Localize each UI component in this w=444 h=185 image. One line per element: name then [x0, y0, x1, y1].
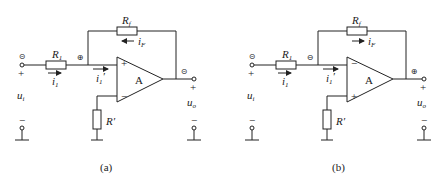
node-in-symbol-a: ⊝: [19, 52, 26, 61]
resistor-rprime-b: [323, 110, 331, 129]
amp-label-a: A: [135, 74, 143, 86]
opamp-top-input-a: +: [121, 57, 127, 69]
svg-text:i1: i1: [52, 75, 59, 89]
svg-text:i1′: i1′: [96, 70, 106, 86]
node-mid-symbol-b: ⊖: [307, 53, 314, 62]
ui-plus-a: +: [18, 67, 24, 79]
svg-text:R1: R1: [51, 48, 62, 62]
svg-text:iF: iF: [138, 35, 146, 49]
node-mid-symbol-a: ⊕: [77, 53, 84, 62]
node-out-symbol-a: ⊝: [181, 67, 188, 76]
opamp-bottom-input-b: +: [351, 90, 357, 102]
opamp-bottom-input-a: −: [121, 90, 127, 102]
svg-text:i1: i1: [282, 75, 289, 89]
rprime-label-a: R′: [105, 115, 116, 127]
rprime-label-b: R′: [335, 115, 346, 127]
opamp-top-input-b: −: [351, 57, 357, 69]
svg-text:−: −: [19, 114, 25, 126]
resistor-rf-b: [347, 27, 367, 35]
amp-label-b: A: [365, 74, 373, 86]
svg-text:R′: R′: [335, 115, 346, 127]
svg-text:Rf: Rf: [351, 14, 362, 28]
svg-text:R′: R′: [105, 115, 116, 127]
svg-text:Rf: Rf: [121, 14, 132, 28]
circuit-diagrams: ⊝ ⊕ ⊝ + + R1 Rf R′ A + − i1 i1′ iF ui uo…: [0, 0, 444, 185]
resistor-rf-a: [117, 27, 137, 35]
uo-plus-a: +: [190, 81, 196, 93]
resistor-r1-a: [46, 61, 66, 69]
caption-b: (b): [332, 161, 345, 174]
resistor-r1-b: [276, 61, 296, 69]
svg-text:−: −: [249, 114, 255, 126]
svg-text:uo: uo: [187, 96, 197, 110]
figure-b-labels: ⊝ ⊖ ⊕ + + R1 Rf R′ A − + i1 i1′ iF ui uo…: [247, 14, 427, 174]
figure-a-labels: ⊝ ⊕ ⊝ + + R1 Rf R′ A + − i1 i1′ iF ui uo…: [17, 14, 197, 174]
svg-text:uo: uo: [417, 96, 427, 110]
svg-text:i1′: i1′: [326, 70, 336, 86]
svg-text:+: +: [248, 67, 254, 79]
svg-text:R1: R1: [281, 48, 292, 62]
resistor-rprime-a: [93, 110, 101, 129]
svg-text:ui: ui: [247, 89, 255, 103]
svg-text:−: −: [191, 114, 197, 126]
node-out-symbol-b: ⊕: [411, 67, 418, 76]
svg-text:ui: ui: [17, 89, 25, 103]
svg-text:iF: iF: [368, 35, 376, 49]
caption-a: (a): [100, 161, 113, 174]
node-in-symbol-b: ⊝: [249, 52, 256, 61]
svg-text:+: +: [420, 81, 426, 93]
svg-text:−: −: [421, 114, 427, 126]
